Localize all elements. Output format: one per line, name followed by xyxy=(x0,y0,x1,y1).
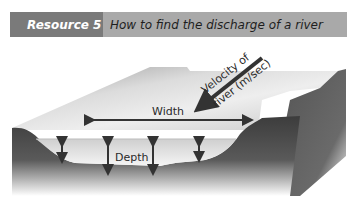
depth-label: Depth xyxy=(115,151,149,164)
river-channel-diagram: Width Velocity of river (m/sec) Depth xyxy=(0,0,357,213)
width-label: Width xyxy=(152,105,184,118)
